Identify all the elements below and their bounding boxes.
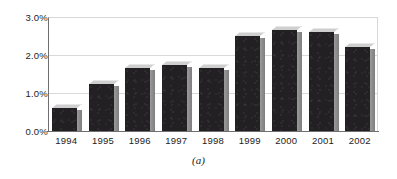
bar-front-face (345, 47, 370, 131)
bar-side-face (150, 70, 155, 131)
y-axis-tick-label: 1.0% (4, 89, 48, 99)
y-axis-tick-label: 0.0% (4, 127, 48, 137)
bar-side-face (297, 32, 302, 131)
bar-front-face (235, 36, 260, 131)
bar-front-face (199, 68, 224, 131)
bar-top-face (309, 28, 339, 32)
bar-front-face (309, 32, 334, 131)
bar-front-face (89, 84, 114, 132)
bar-side-face (77, 110, 82, 131)
x-axis-tick-labels: 199419951996199719981999200020012002 (48, 134, 378, 150)
x-axis-tick-label: 2000 (268, 134, 305, 148)
bar-2002 (345, 17, 370, 131)
bar-side-face (114, 86, 119, 132)
bar-front-face (272, 30, 297, 131)
x-axis-tick-label: 1999 (231, 134, 268, 148)
bar-top-face (162, 61, 192, 65)
bar-top-face (272, 26, 302, 30)
bar-chart-figure: 3.0% 2.0% 1.0% 0.0% 19941995199619971998… (0, 0, 397, 179)
bar-1998 (199, 17, 224, 131)
bar-side-face (370, 49, 375, 131)
x-axis-tick-label: 2001 (305, 134, 342, 148)
x-axis-tick-label: 1994 (48, 134, 85, 148)
bar-top-face (235, 32, 265, 36)
bar-front-face (125, 68, 150, 131)
y-axis-tick-label: 3.0% (4, 13, 48, 23)
bar-2001 (309, 17, 334, 131)
bar-side-face (187, 67, 192, 132)
bar-side-face (334, 34, 339, 131)
x-axis-tick-label: 1997 (158, 134, 195, 148)
bar-1995 (89, 17, 114, 131)
x-axis-line (47, 131, 379, 132)
bar-front-face (162, 65, 187, 132)
bar-1997 (162, 17, 187, 131)
bar-top-face (345, 43, 375, 47)
bar-top-face (52, 104, 82, 108)
bar-1999 (235, 17, 260, 131)
x-axis-tick-label: 1995 (85, 134, 122, 148)
bar-2000 (272, 17, 297, 131)
x-axis-tick-label: 2002 (341, 134, 378, 148)
bar-top-face (125, 64, 155, 68)
bar-1994 (52, 17, 77, 131)
bar-side-face (260, 38, 265, 131)
x-axis-tick-label: 1998 (195, 134, 232, 148)
figure-caption: (a) (0, 154, 397, 166)
bar-top-face (199, 64, 229, 68)
bar-1996 (125, 17, 150, 131)
bar-front-face (52, 108, 77, 131)
bar-side-face (224, 70, 229, 131)
bar-top-face (89, 80, 119, 84)
bar-series (48, 17, 378, 131)
y-axis-tick-label: 2.0% (4, 51, 48, 61)
x-axis-tick-label: 1996 (121, 134, 158, 148)
